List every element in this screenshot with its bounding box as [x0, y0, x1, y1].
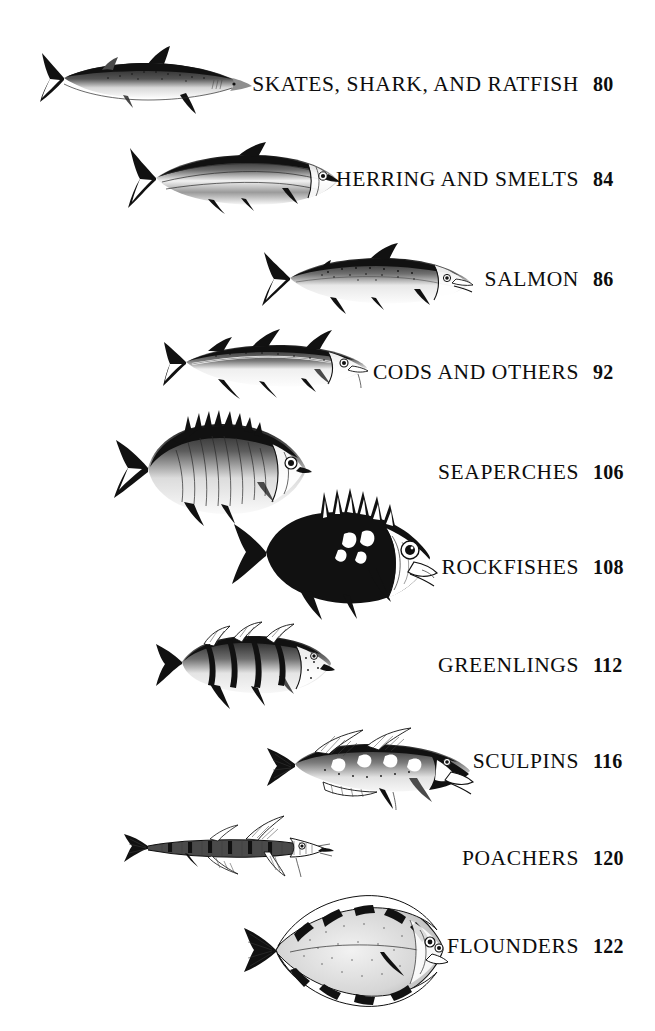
- contents-page: SKATES, SHARK, AND RATFISH 80: [0, 0, 655, 1031]
- entry-label: SKATES, SHARK, AND RATFISH: [252, 72, 579, 97]
- entry-text: SKATES, SHARK, AND RATFISH 80: [252, 72, 637, 97]
- entry-text: FLOUNDERS 122: [447, 934, 637, 959]
- entry-label: FLOUNDERS: [447, 934, 579, 959]
- entry-text: GREENLINGS 112: [438, 653, 637, 678]
- entry-label: POACHERS: [462, 846, 579, 871]
- entry-page-number: 120: [593, 847, 637, 870]
- entry-page-number: 112: [593, 654, 637, 677]
- entry-label: HERRING AND SMELTS: [336, 167, 579, 192]
- entry-text: SALMON 86: [485, 267, 637, 292]
- flounder-illustration: [234, 880, 450, 1020]
- shark-illustration: [36, 44, 254, 116]
- entry-page-number: 116: [593, 750, 637, 773]
- entry-page-number: 92: [593, 361, 637, 384]
- entry-label: ROCKFISHES: [442, 555, 579, 580]
- herring-illustration: [122, 142, 342, 214]
- greenling-illustration: [148, 616, 336, 710]
- entry-page-number: 108: [593, 556, 637, 579]
- entry-page-number: 84: [593, 168, 637, 191]
- entry-label: SEAPERCHES: [438, 460, 579, 485]
- entry-text: POACHERS 120: [462, 846, 637, 871]
- salmon-illustration: [258, 242, 474, 316]
- entry-label: CODS AND OTHERS: [373, 360, 579, 385]
- entry-text: ROCKFISHES 108: [442, 555, 637, 580]
- entry-text: CODS AND OTHERS 92: [373, 360, 637, 385]
- rockfish-illustration: [226, 486, 440, 620]
- entry-page-number: 80: [593, 73, 637, 96]
- entry-page-number: 86: [593, 268, 637, 291]
- cod-illustration: [156, 322, 370, 400]
- entry-text: HERRING AND SMELTS 84: [336, 167, 637, 192]
- entry-page-number: 106: [593, 461, 637, 484]
- entry-text: SCULPINS 116: [473, 749, 637, 774]
- entry-label: SALMON: [485, 267, 579, 292]
- sculpin-illustration: [261, 724, 475, 810]
- entry-label: GREENLINGS: [438, 653, 579, 678]
- poacher-illustration: [118, 808, 334, 880]
- entry-text: SEAPERCHES 106: [438, 460, 637, 485]
- entry-label: SCULPINS: [473, 749, 579, 774]
- entry-page-number: 122: [593, 935, 637, 958]
